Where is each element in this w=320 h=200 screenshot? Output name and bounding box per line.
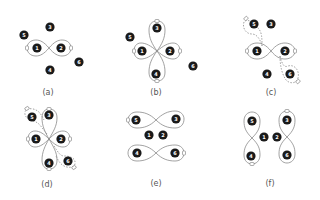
node-number: 5: [250, 118, 254, 124]
node-number: 4: [48, 67, 52, 73]
panel-label-c: (c): [266, 88, 277, 97]
node-1: 1: [252, 46, 261, 55]
panel-c: 123456 (c): [243, 16, 300, 97]
panel-f: 123456 (f): [244, 110, 295, 189]
node-number: 3: [269, 21, 273, 27]
node-6: 6: [282, 150, 291, 159]
dashed-loop-upper: [25, 109, 47, 134]
node-number: 1: [255, 48, 259, 54]
node-1: 1: [137, 46, 146, 55]
robot-marker-icon: [69, 137, 72, 141]
robot-marker-icon: [26, 46, 29, 50]
node-number: 6: [173, 150, 177, 156]
node-number: 3: [285, 117, 289, 123]
node-6: 6: [63, 156, 72, 165]
panel-label-e: (e): [150, 179, 161, 188]
node-2: 2: [280, 46, 289, 55]
node-6: 6: [74, 57, 83, 66]
robot-marker-icon: [155, 80, 159, 83]
robot-marker-icon: [27, 137, 30, 141]
robot-marker-icon: [246, 49, 249, 53]
node-2: 2: [56, 134, 65, 143]
node-number: 6: [77, 59, 81, 65]
robot-marker-icon: [183, 151, 186, 155]
node-group: 123456: [131, 114, 180, 157]
node-1: 1: [144, 130, 153, 139]
node-number: 4: [154, 71, 158, 77]
node-1: 1: [32, 43, 41, 52]
robot-marker-icon: [70, 46, 73, 50]
robot-marker-icon: [244, 16, 249, 21]
panel-label-d: (d): [41, 180, 52, 189]
robot-marker-icon: [25, 106, 30, 111]
node-number: 5: [128, 34, 132, 40]
panel-d: 123456 (d): [25, 106, 77, 189]
node-5: 5: [247, 116, 256, 125]
node-3: 3: [282, 115, 291, 124]
node-3: 3: [44, 110, 53, 119]
node-group: 123456: [249, 19, 294, 78]
node-number: 3: [48, 24, 52, 30]
node-number: 2: [283, 48, 287, 54]
panel-b: 123456 (b): [125, 20, 197, 98]
node-5: 5: [27, 112, 36, 121]
panel-label-f: (f): [265, 179, 274, 188]
node-group: 123456: [246, 115, 291, 160]
node-group: 123456: [27, 110, 72, 167]
robot-marker-icon: [250, 163, 254, 166]
node-5: 5: [249, 19, 258, 28]
node-number: 1: [147, 132, 151, 138]
node-number: 6: [288, 71, 292, 77]
node-number: 5: [22, 32, 26, 38]
node-number: 5: [252, 21, 256, 27]
node-5: 5: [131, 115, 140, 124]
node-number: 1: [35, 45, 39, 51]
node-number: 6: [66, 158, 70, 164]
node-4: 4: [132, 148, 141, 157]
robot-marker-icon: [296, 79, 301, 84]
node-1: 1: [31, 134, 40, 143]
node-2: 2: [158, 130, 167, 139]
node-number: 6: [191, 63, 195, 69]
node-group: 123456: [19, 22, 83, 74]
node-4: 4: [246, 151, 255, 160]
node-3: 3: [152, 23, 161, 32]
node-number: 6: [285, 152, 289, 158]
node-number: 4: [47, 160, 51, 166]
panel-e: 123456 (e): [127, 111, 186, 188]
node-number: 3: [47, 112, 51, 118]
node-5: 5: [125, 32, 134, 41]
node-4: 4: [45, 65, 54, 74]
node-5: 5: [19, 30, 28, 39]
figure-canvas: 123456 (a) 123456 (b) 123456 (c): [0, 0, 320, 200]
node-number: 3: [174, 116, 178, 122]
node-number: 2: [275, 134, 279, 140]
node-number: 4: [249, 153, 253, 159]
dashed-loop-lower: [280, 56, 298, 83]
node-6: 6: [188, 61, 197, 70]
robot-marker-icon: [72, 165, 77, 170]
node-number: 4: [135, 150, 139, 156]
node-6: 6: [170, 148, 179, 157]
panel-a: 123456 (a): [19, 22, 83, 97]
node-number: 2: [59, 136, 63, 142]
node-number: 3: [155, 25, 159, 31]
robot-marker-icon: [155, 20, 159, 23]
robot-marker-icon: [47, 168, 51, 171]
node-number: 1: [140, 48, 144, 54]
panel-label-a: (a): [42, 88, 53, 97]
node-number: 1: [34, 136, 38, 142]
node-2: 2: [272, 132, 281, 141]
node-number: 5: [134, 117, 138, 123]
node-2: 2: [56, 43, 65, 52]
node-3: 3: [266, 19, 275, 28]
robot-marker-icon: [133, 49, 136, 53]
node-4: 4: [44, 158, 53, 167]
node-number: 2: [59, 45, 63, 51]
node-3: 3: [45, 22, 54, 31]
robot-marker-icon: [285, 110, 289, 113]
node-2: 2: [165, 46, 174, 55]
robot-marker-icon: [47, 108, 51, 111]
panel-label-b: (b): [150, 88, 161, 97]
node-number: 5: [30, 114, 34, 120]
